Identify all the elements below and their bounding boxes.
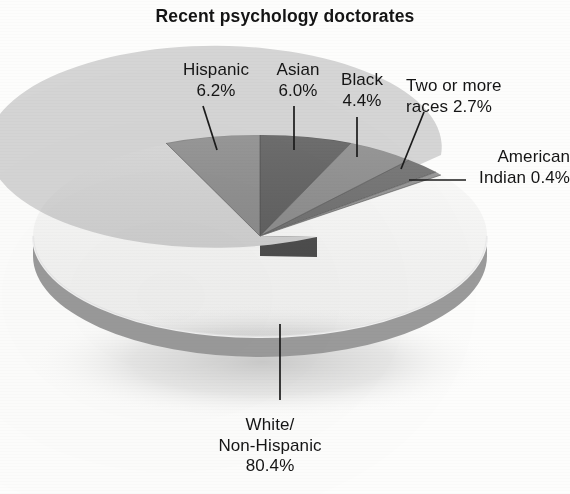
chart-page: Recent psychology doctorates [0,0,570,494]
slice-label-hispanic: Hispanic 6.2% [160,60,272,101]
slice-label-two-or-more-races: Two or more races 2.7% [406,76,566,117]
slice-label-black: Black 4.4% [326,70,398,111]
slice-label-american-indian: American Indian 0.4% [437,147,570,188]
slice-label-white-non-hispanic: White/ Non-Hispanic 80.4% [170,415,370,477]
